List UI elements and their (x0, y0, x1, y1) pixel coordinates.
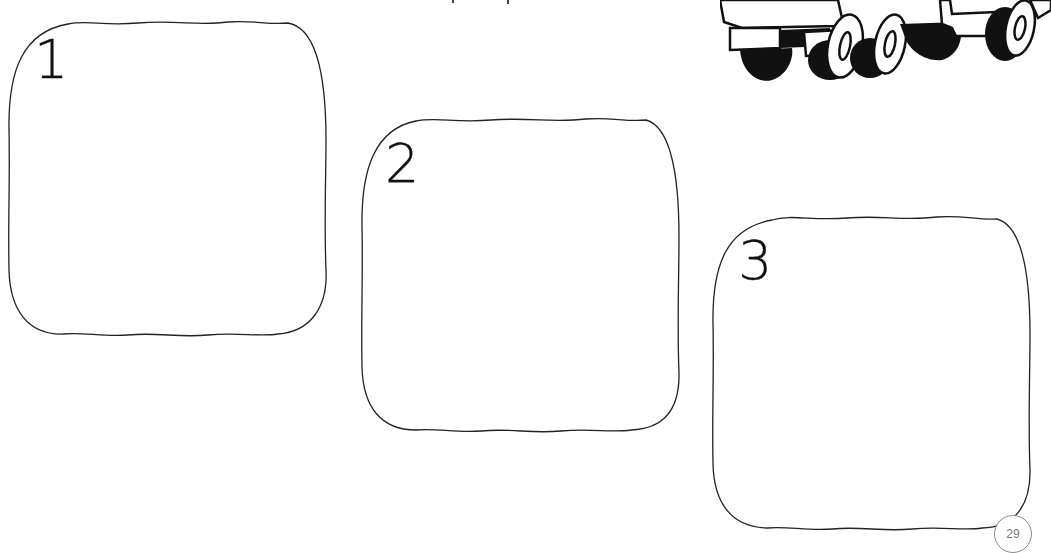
text-fragment-mark (507, 0, 509, 4)
truck-illustration (720, 0, 1051, 90)
story-frame-2: 2 (361, 117, 681, 434)
frame-number: 1 (34, 33, 67, 87)
story-frame-1: 1 (8, 20, 328, 338)
page-number-badge: 29 (994, 515, 1032, 553)
worksheet-page: 1 2 3 29 (0, 0, 1051, 553)
story-frame-3: 3 (712, 214, 1032, 532)
frame-number: 3 (738, 234, 771, 288)
page-number: 29 (1006, 527, 1019, 541)
frame-number: 2 (385, 137, 418, 191)
text-fragment-mark (452, 0, 454, 3)
